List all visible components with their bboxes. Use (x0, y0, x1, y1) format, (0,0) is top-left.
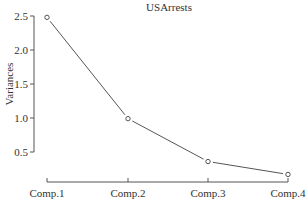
line-segment (213, 162, 283, 173)
data-point-marker (45, 15, 49, 19)
y-tick-label: 2.5 (14, 10, 28, 22)
x-tick-label: Comp.2 (110, 187, 145, 199)
x-tick-label: Comp.4 (270, 187, 306, 199)
x-tick-label: Comp.3 (190, 187, 226, 199)
x-axis: Comp.1Comp.2Comp.3Comp.4 (29, 178, 306, 199)
y-axis-label: Variances (3, 63, 15, 106)
y-tick-label: 1.5 (14, 78, 28, 90)
scree-plot: USArrests 0.51.01.52.02.5 Variances Comp… (0, 0, 308, 208)
line-segment (132, 121, 203, 159)
y-tick-label: 0.5 (14, 146, 28, 158)
y-tick-label: 2.0 (14, 44, 28, 56)
y-tick-label: 1.0 (14, 112, 28, 124)
chart-title: USArrests (146, 1, 192, 13)
line-segment (50, 21, 125, 115)
data-series (45, 15, 290, 176)
data-point-marker (126, 116, 130, 120)
data-point-marker (206, 159, 210, 163)
y-axis: 0.51.01.52.02.5 Variances (3, 10, 34, 158)
data-point-marker (286, 172, 290, 176)
x-tick-label: Comp.1 (29, 187, 64, 199)
